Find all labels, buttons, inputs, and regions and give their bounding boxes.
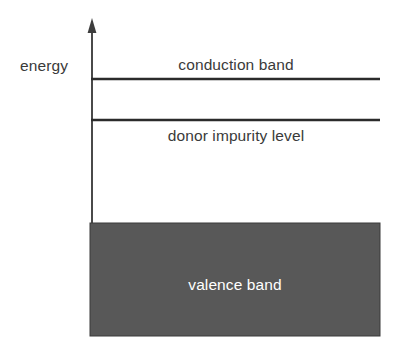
energy-axis-label: energy <box>20 58 68 74</box>
valence-band-label: valence band <box>90 277 380 293</box>
conduction-band-label: conduction band <box>92 57 380 73</box>
energy-band-diagram: energy conduction band donor impurity le… <box>0 0 410 350</box>
donor-impurity-level-label: donor impurity level <box>92 128 380 144</box>
energy-axis-arrow-icon <box>88 18 97 33</box>
diagram-canvas <box>0 0 410 350</box>
